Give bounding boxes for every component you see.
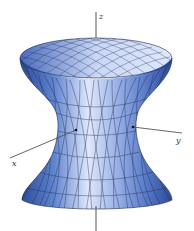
- y-axis: [133, 127, 182, 133]
- y-axis-intercept-point: [132, 126, 135, 129]
- hyperboloid-figure: z y x: [0, 0, 194, 231]
- x-axis-intercept-point: [75, 129, 78, 132]
- z-axis-label: z: [98, 12, 104, 21]
- y-axis-label: y: [175, 136, 181, 145]
- x-axis-label: x: [12, 159, 17, 168]
